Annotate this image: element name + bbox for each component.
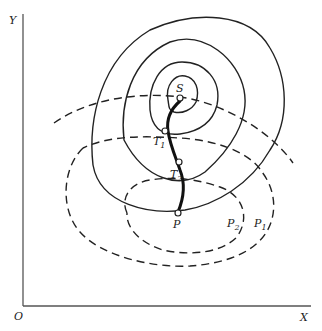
point-p bbox=[175, 210, 181, 216]
label-p2: P2 bbox=[226, 217, 240, 232]
contour-outer bbox=[92, 17, 284, 211]
axes bbox=[23, 14, 311, 306]
label-p1: P1 bbox=[253, 217, 267, 232]
label-p2-sub: 2 bbox=[233, 223, 239, 232]
label-t1-sub: 1 bbox=[160, 141, 165, 150]
point-t1 bbox=[162, 128, 168, 134]
point-t2 bbox=[176, 159, 182, 165]
x-axis-label: X bbox=[299, 311, 309, 324]
optimal-path bbox=[168, 101, 184, 212]
labels: Y X O S T1 T2 P P2 P1 bbox=[9, 14, 309, 324]
label-s: S bbox=[176, 82, 184, 95]
origin-label: O bbox=[14, 310, 23, 323]
contour-diagram: Y X O S T1 T2 P P2 P1 bbox=[0, 0, 322, 331]
label-t2-sub: 2 bbox=[176, 174, 182, 183]
y-axis-label: Y bbox=[9, 14, 18, 27]
point-s bbox=[177, 95, 183, 101]
label-p: P bbox=[172, 218, 181, 231]
objective-contours bbox=[92, 17, 284, 211]
contour-third bbox=[123, 39, 245, 180]
constraint-p1 bbox=[66, 137, 274, 266]
label-p1-sub: 1 bbox=[261, 223, 266, 232]
